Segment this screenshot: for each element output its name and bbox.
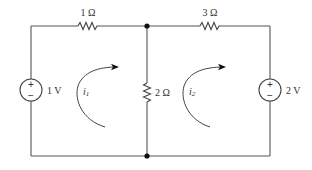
resistor-zigzag-icon: [78, 23, 98, 30]
circuit-diagram: 1 Ω 3 Ω 2 Ω + − 1 V + − 2 V i1 i2: [0, 0, 312, 170]
junction-bottom-dot: [144, 153, 149, 158]
resistor-1-ohm: 1 Ω: [78, 7, 98, 30]
resistor-3-ohm: 3 Ω: [200, 7, 220, 30]
clockwise-arrow-icon: [77, 67, 117, 127]
loop-1-label: i1: [83, 86, 89, 98]
voltage-source-1-label: 1 V: [47, 85, 62, 96]
resistor-2-label: 2 Ω: [155, 87, 170, 98]
resistor-zigzag-icon: [144, 83, 151, 102]
voltage-source-1v: + − 1 V: [20, 79, 62, 101]
wires: [31, 26, 270, 156]
clockwise-arrow-icon: [183, 67, 224, 127]
plus-sign: +: [28, 79, 34, 90]
resistor-2-ohm: 2 Ω: [144, 83, 170, 102]
junction-top-dot: [144, 23, 149, 28]
voltage-source-2v: + − 2 V: [259, 79, 301, 101]
resistor-1-label: 1 Ω: [81, 7, 96, 18]
loop-current-i1: i1: [77, 67, 117, 127]
resistor-3-label: 3 Ω: [203, 7, 218, 18]
loop-2-label: i2: [189, 86, 196, 98]
loop-current-i2: i2: [183, 67, 224, 127]
voltage-source-2-label: 2 V: [286, 85, 301, 96]
minus-sign: −: [28, 90, 34, 101]
plus-sign: +: [267, 79, 273, 90]
minus-sign: −: [267, 90, 273, 101]
resistor-zigzag-icon: [200, 23, 220, 30]
